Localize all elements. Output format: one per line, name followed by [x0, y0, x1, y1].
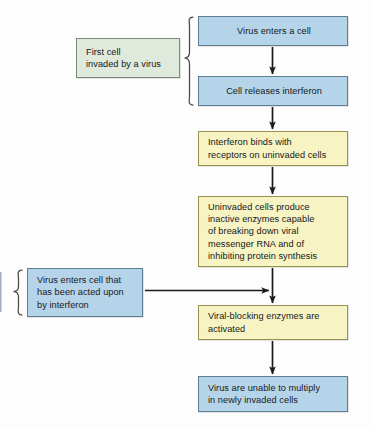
annotation-node-line: First cell	[86, 46, 172, 58]
flow-node-cell-releases: Cell releases interferon	[198, 76, 348, 106]
flow-node-line: receptors on uninvaded cells	[208, 149, 340, 161]
annotation-node-line: invaded by a virus	[86, 58, 172, 70]
flow-node-line: inhibiting protein synthesis	[208, 250, 340, 262]
flowchart-diagram: Virus enters a cell Cell releases interf…	[0, 0, 371, 429]
annotation-node-line: by interferon	[37, 299, 135, 311]
flow-node-virus-enters: Virus enters a cell	[198, 16, 348, 46]
flow-node-line: Cell releases interferon	[226, 85, 322, 97]
annotation-node-virus-enters-cell: Virus enters cell that has been acted up…	[27, 268, 143, 317]
flow-node-interferon-binds: Interferon binds with receptors on uninv…	[198, 131, 348, 166]
flow-node-line: Virus are unable to multiply	[208, 382, 340, 394]
brace-first-cell	[185, 17, 194, 105]
flow-node-line: Virus enters a cell	[237, 25, 311, 37]
flow-node-line: Interferon binds with	[208, 136, 340, 148]
flow-node-line: in newly invaded cells	[208, 394, 340, 406]
flow-node-virus-unable: Virus are unable to multiply in newly in…	[198, 376, 348, 412]
annotation-node-line: has been acted upon	[37, 286, 135, 298]
flow-node-line: Viral-blocking enzymes are	[208, 310, 340, 322]
flow-node-line: activated	[208, 323, 340, 335]
flow-node-uninvaded-cells: Uninvaded cells produce inactive enzymes…	[198, 196, 348, 267]
annotation-node-line: Virus enters cell that	[37, 274, 135, 286]
flow-node-viral-blocking: Viral-blocking enzymes are activated	[198, 305, 348, 340]
annotation-node-first-cell: First cell invaded by a virus	[76, 38, 180, 78]
brace-virus-enters-cell	[14, 270, 23, 315]
flow-node-line: Uninvaded cells produce	[208, 201, 340, 213]
flow-node-line: messenger RNA and of	[208, 238, 340, 250]
flow-node-line: of breaking down viral	[208, 225, 340, 237]
flow-node-line: inactive enzymes capable	[208, 213, 340, 225]
